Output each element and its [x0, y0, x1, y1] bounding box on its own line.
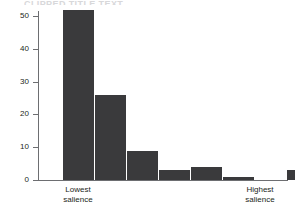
category-label-lowest: Lowest salience: [48, 185, 108, 205]
bar-6: [223, 177, 254, 180]
y-tick-10: 10: [0, 147, 38, 148]
y-tick-label: 20: [0, 110, 29, 118]
y-tick-label: 50: [0, 12, 29, 20]
category-label-lowest-line2: salience: [48, 195, 108, 205]
y-tick-20: 20: [0, 114, 38, 115]
y-tick-30: 30: [0, 82, 38, 83]
y-tick-label: 30: [0, 78, 29, 86]
y-tick-40: 40: [0, 49, 38, 50]
bar-2: [95, 95, 126, 180]
bar-3: [127, 151, 158, 180]
bar-1: [63, 10, 94, 180]
y-tick-mark: [33, 16, 38, 17]
category-label-highest-line2: salience: [230, 195, 290, 205]
plot-area: 0 10 20 30 40 50 Lowes: [0, 0, 295, 214]
y-tick-label: 0: [0, 176, 29, 184]
bar-chart: CLIPPED TITLE TEXT 0 10 20 30 40 50: [0, 0, 295, 214]
y-tick-mark: [33, 147, 38, 148]
y-tick-label: 40: [0, 45, 29, 53]
x-axis-line: [38, 180, 288, 181]
y-tick-mark: [33, 49, 38, 50]
y-tick-label: 10: [0, 143, 29, 151]
bar-4: [159, 170, 190, 180]
category-label-highest-line1: Highest: [230, 185, 290, 195]
y-tick-mark: [33, 114, 38, 115]
y-tick-0: 0: [0, 180, 38, 181]
y-tick-mark: [33, 82, 38, 83]
category-label-lowest-line1: Lowest: [48, 185, 108, 195]
bar-5: [191, 167, 222, 180]
bar-8: [287, 170, 295, 180]
category-label-highest: Highest salience: [230, 185, 290, 205]
y-tick-50: 50: [0, 16, 38, 17]
y-tick-mark: [33, 180, 38, 181]
y-axis-line: [38, 11, 39, 181]
